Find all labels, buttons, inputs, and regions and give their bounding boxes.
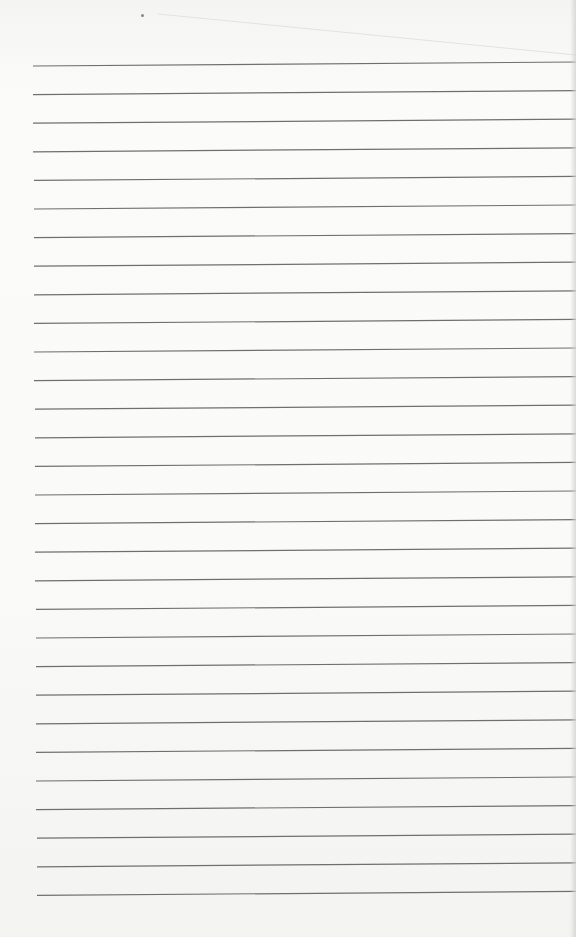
ruled-line <box>36 605 576 609</box>
ruled-line <box>35 462 576 466</box>
ruled-line <box>36 777 576 781</box>
ruled-line <box>37 863 576 867</box>
ruled-line <box>33 91 576 95</box>
ruled-line <box>33 62 576 66</box>
ruled-line <box>35 548 576 552</box>
ruled-line <box>34 176 576 180</box>
ruled-line <box>34 348 576 352</box>
ruled-lines <box>0 0 576 937</box>
ruled-line <box>34 234 576 238</box>
ruled-line <box>36 806 576 810</box>
ruled-line <box>36 634 576 638</box>
ruled-line <box>36 720 576 724</box>
ruled-line <box>37 834 576 838</box>
ruled-line <box>36 691 576 695</box>
ruled-line <box>35 405 576 409</box>
ruled-line <box>34 377 576 381</box>
paper-crease <box>158 14 576 55</box>
ruled-line <box>35 491 576 495</box>
ruled-line <box>35 434 576 438</box>
edge-shadow <box>570 0 576 937</box>
ruled-line <box>35 520 576 524</box>
ruled-line <box>34 291 576 295</box>
lined-paper-sheet <box>0 0 576 937</box>
ruled-line <box>35 577 576 581</box>
ruled-line <box>34 319 576 323</box>
ruled-line <box>34 262 576 266</box>
ruled-line <box>36 663 576 667</box>
ruled-line <box>37 891 576 895</box>
ruled-line <box>34 205 576 209</box>
ruled-line <box>33 148 576 152</box>
ruled-line <box>36 748 576 752</box>
ruled-line <box>33 119 576 123</box>
